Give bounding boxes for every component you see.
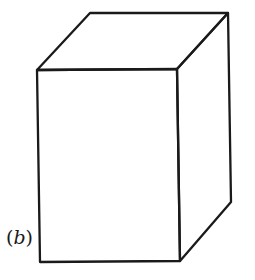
box-diagram [0,0,255,280]
front-face [37,69,180,262]
side-face [177,13,231,261]
top-face [37,13,228,70]
figure-label: (b) [6,228,33,247]
